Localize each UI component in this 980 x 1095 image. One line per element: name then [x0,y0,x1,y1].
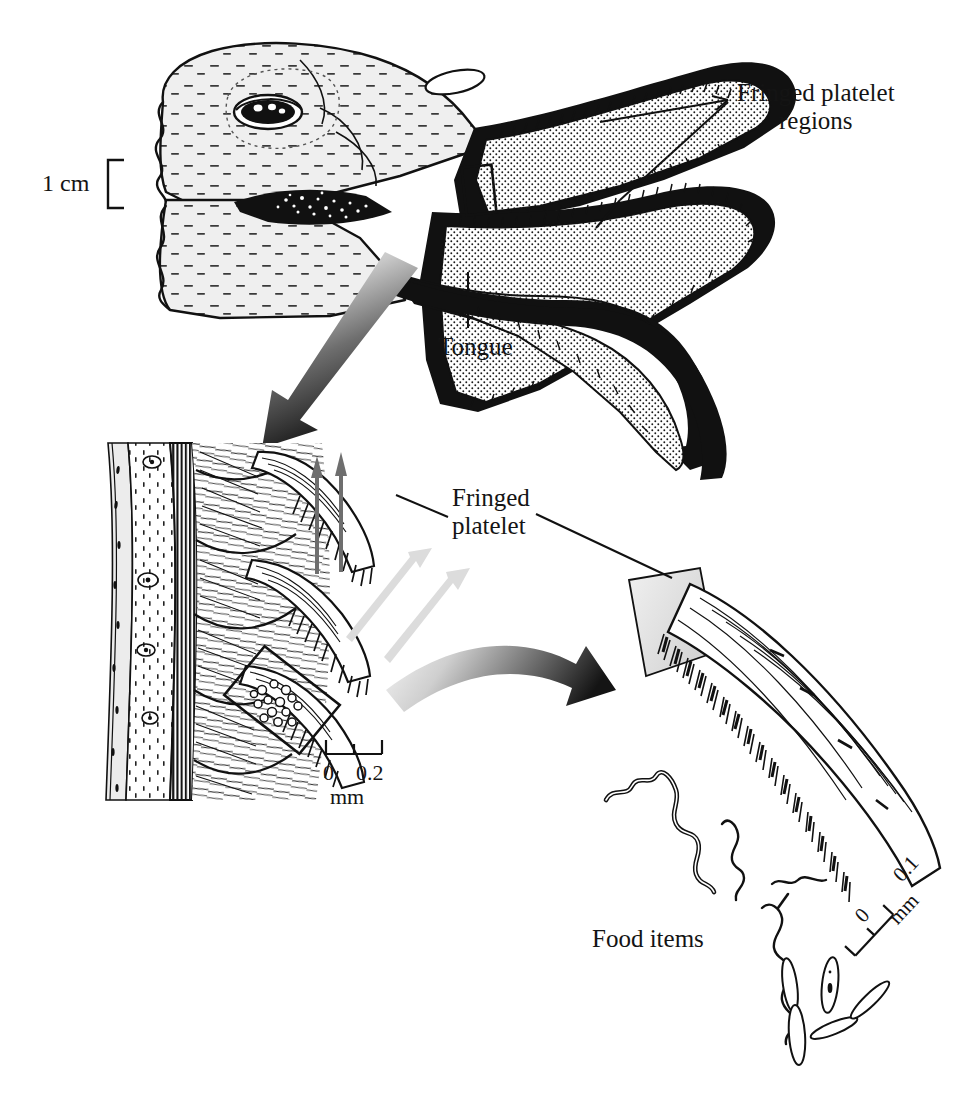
scale-right-max: 0.1 [888,851,924,887]
scale-middle-min: 0 [323,760,334,786]
scale-middle-units: mm [330,784,364,810]
scale-right-units: mm [884,889,925,930]
label-food-items: Food items [592,925,704,953]
scale-label-1cm: 1 cm [42,170,89,197]
label-fringed-platelet-line1: Fringed [452,484,530,511]
label-fringed-platelet-line2: platelet [452,512,526,539]
scale-bar-right-canvas [0,0,980,1095]
label-fringed-platelet-regions-line2: regions [779,107,853,134]
figure-root: Fringed plateletregions Fringedplatelet … [0,0,980,1095]
label-tongue: Tongue [438,333,513,361]
label-fringed-platelet: Fringedplatelet [452,484,530,540]
scale-middle-max: 0.2 [356,760,384,786]
label-fringed-platelet-regions: Fringed plateletregions [737,79,895,135]
label-fringed-platelet-regions-line1: Fringed platelet [737,79,895,106]
